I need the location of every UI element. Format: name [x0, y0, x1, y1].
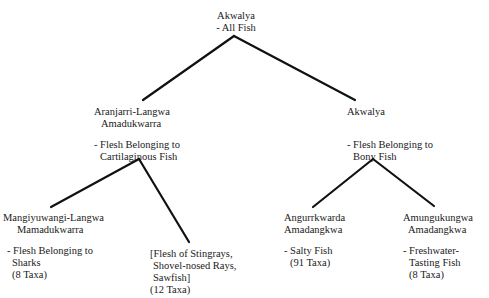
- node-name-line-1: Aranjarri-Langwa: [94, 106, 180, 118]
- node-description-line-1: [Flesh of Stingrays,: [150, 248, 236, 260]
- node-name-line-1: Akwalya: [347, 106, 433, 118]
- node-name-line-2: Amadukwarra: [94, 118, 180, 130]
- node-description-line-1: - Salty Fish: [284, 245, 345, 257]
- node-description-line-2: Sharks: [3, 257, 104, 269]
- node-bony-fish: Akwalya - Flesh Belonging to Bony Fish: [347, 106, 433, 163]
- node-description-line-3: Sawfish]: [150, 272, 236, 284]
- node-stingrays-rays-sawfish: [Flesh of Stingrays, Shovel-nosed Rays, …: [150, 248, 236, 296]
- node-description-line-2: Cartilaginous Fish: [94, 151, 180, 163]
- node-description-line-1: - Flesh Belonging to: [347, 139, 433, 151]
- node-sharks: Mangiyuwangi-Langwa Mamadukwarra - Flesh…: [3, 212, 104, 281]
- node-description-line-1: - Flesh Belonging to: [3, 245, 104, 257]
- edge-cartilaginous-to-sharks: [51, 159, 139, 207]
- edge-cartilaginous-to-rays: [139, 159, 189, 242]
- node-description-line-3: (8 Taxa): [403, 269, 473, 281]
- node-salty-fish: Angurrkwarda Amadangkwa - Salty Fish (91…: [284, 212, 345, 269]
- edge-bony-to-salty: [313, 159, 373, 207]
- node-description-line-2: (91 Taxa): [284, 257, 345, 269]
- edge-root-to-cartilaginous: [143, 36, 234, 100]
- node-cartilaginous-fish: Aranjarri-Langwa Amadukwarra - Flesh Bel…: [94, 106, 180, 163]
- node-name: Akwalya: [214, 10, 258, 22]
- node-freshwater-fish: Amungukungwa Amadangkwa - Freshwater- Ta…: [403, 212, 473, 281]
- node-name-line-1: Angurrkwarda: [284, 212, 345, 224]
- edge-bony-to-freshwater: [373, 159, 434, 206]
- edge-root-to-bony: [234, 36, 355, 100]
- node-description-line-2: Shovel-nosed Rays,: [150, 260, 236, 272]
- node-description: - All Fish: [214, 22, 258, 34]
- node-name-line-1: Amungukungwa: [403, 212, 473, 224]
- node-name-line-2: Amadangkwa: [403, 224, 473, 236]
- node-description-line-1: - Freshwater-: [403, 245, 473, 257]
- node-description-line-4: (12 Taxa): [150, 284, 236, 296]
- node-description-line-3: (8 Taxa): [3, 269, 104, 281]
- node-description-line-2: Bony Fish: [347, 151, 433, 163]
- node-description-line-1: - Flesh Belonging to: [94, 139, 180, 151]
- node-description-line-2: Tasting Fish: [403, 257, 473, 269]
- node-name-line-2: Amadangkwa: [284, 224, 345, 236]
- node-root-all-fish: Akwalya - All Fish: [214, 10, 258, 34]
- node-name-line-2: Mamadukwarra: [3, 224, 104, 236]
- node-name-line-1: Mangiyuwangi-Langwa: [3, 212, 104, 224]
